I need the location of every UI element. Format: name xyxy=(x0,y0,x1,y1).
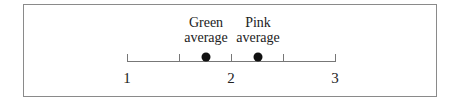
axis-tick xyxy=(283,54,284,62)
axis-tick xyxy=(231,54,232,62)
label-line: Green xyxy=(184,15,228,30)
label-line: average xyxy=(184,30,228,45)
label-line: Pink xyxy=(236,15,280,30)
label-line: average xyxy=(236,30,280,45)
tick-label: 2 xyxy=(227,70,235,86)
data-point-dot xyxy=(254,53,263,62)
axis-tick xyxy=(179,54,180,62)
data-point-dot xyxy=(202,53,211,62)
data-point-label: Greenaverage xyxy=(184,15,228,45)
axis-tick xyxy=(127,54,128,62)
axis-tick xyxy=(335,54,336,62)
data-point-label: Pinkaverage xyxy=(236,15,280,45)
tick-label: 1 xyxy=(123,70,131,86)
tick-label: 3 xyxy=(331,70,339,86)
